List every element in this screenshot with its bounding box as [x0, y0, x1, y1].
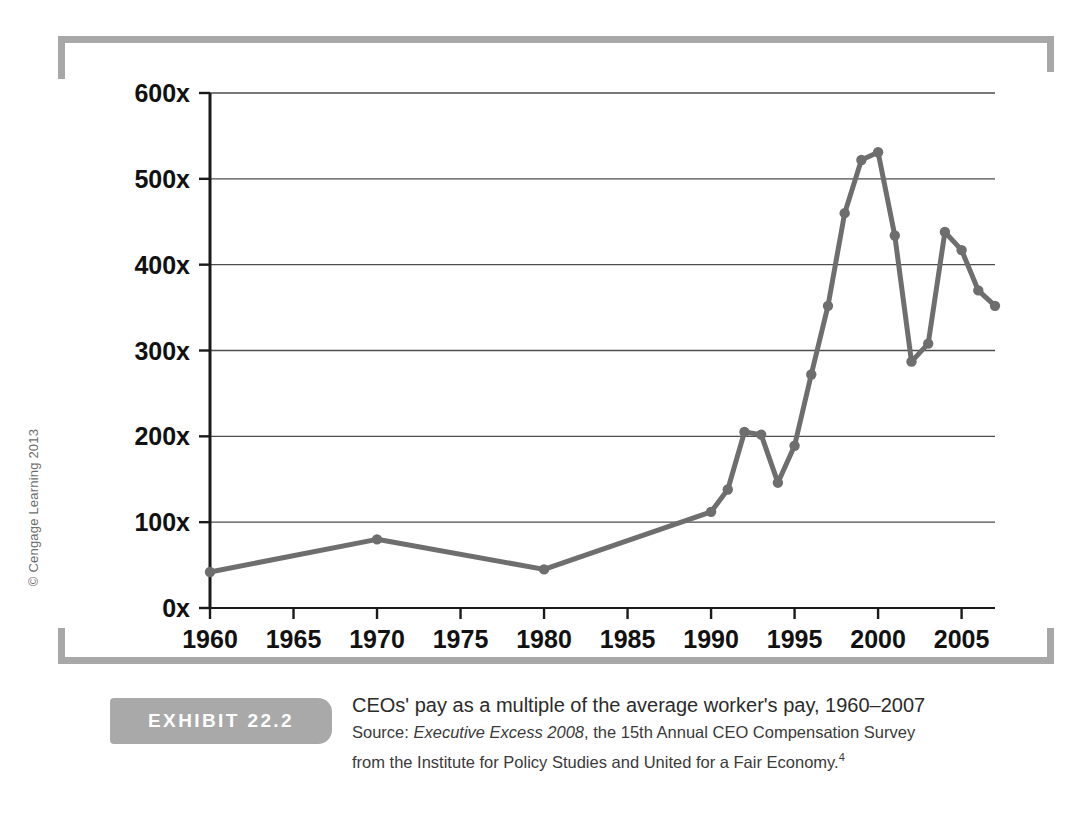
- x-axis-tick-labels: 1960196519701975198019851990199520002005: [182, 625, 989, 653]
- y-tick-label: 200x: [134, 422, 190, 450]
- x-tick-label: 1970: [349, 625, 405, 653]
- x-tick-label: 1980: [516, 625, 572, 653]
- y-tick-label: 300x: [134, 337, 190, 365]
- gridlines: [210, 93, 995, 608]
- y-tick-label: 100x: [134, 508, 190, 536]
- data-point: [806, 369, 816, 379]
- x-tick-label: 1965: [266, 625, 322, 653]
- y-tick-label: 500x: [134, 165, 190, 193]
- exhibit-number-tab: EXHIBIT 22.2: [110, 698, 332, 744]
- data-point: [890, 230, 900, 240]
- y-tick-label: 600x: [134, 79, 190, 107]
- x-tick-label: 1990: [683, 625, 739, 653]
- exhibit-figure: © Cengage Learning 2013 0x100x200x300x40…: [0, 0, 1088, 819]
- caption-source-line-1: Source: Executive Excess 2008, the 15th …: [352, 720, 1052, 745]
- data-point: [906, 356, 916, 366]
- data-point: [739, 427, 749, 437]
- data-point: [956, 245, 966, 255]
- y-tick-label: 0x: [162, 594, 190, 622]
- data-series-line: [210, 152, 995, 572]
- data-point: [372, 534, 382, 544]
- x-tick-label: 1960: [182, 625, 238, 653]
- x-tick-label: 2005: [934, 625, 990, 653]
- x-tick-label: 1985: [600, 625, 656, 653]
- data-point: [839, 208, 849, 218]
- data-point: [756, 429, 766, 439]
- source-prefix: Source:: [352, 723, 413, 741]
- x-tick-label: 1975: [433, 625, 489, 653]
- caption-text: CEOs' pay as a multiple of the average w…: [352, 690, 1052, 775]
- data-point: [773, 477, 783, 487]
- footnote-marker: 4: [839, 751, 845, 763]
- data-point: [973, 285, 983, 295]
- source-rest: , the 15th Annual CEO Compensation Surve…: [584, 723, 915, 741]
- line-chart: 0x100x200x300x400x500x600x 1960196519701…: [0, 0, 1088, 680]
- x-tick-label: 2000: [850, 625, 906, 653]
- caption-title: CEOs' pay as a multiple of the average w…: [352, 690, 1052, 720]
- data-point: [205, 567, 215, 577]
- data-point: [706, 507, 716, 517]
- y-tick-label: 400x: [134, 251, 190, 279]
- data-point: [940, 227, 950, 237]
- data-point: [990, 301, 1000, 311]
- data-point-markers: [205, 147, 1000, 577]
- chart-canvas: 0x100x200x300x400x500x600x 1960196519701…: [0, 0, 1088, 680]
- x-axis-ticks: [210, 608, 962, 619]
- data-point: [789, 441, 799, 451]
- data-point: [856, 155, 866, 165]
- data-point: [539, 564, 549, 574]
- y-axis-tick-labels: 0x100x200x300x400x500x600x: [134, 79, 190, 622]
- x-tick-label: 1995: [767, 625, 823, 653]
- data-point: [823, 301, 833, 311]
- caption-source-line-2: from the Institute for Policy Studies an…: [352, 745, 1052, 775]
- data-point: [923, 338, 933, 348]
- source-publication: Executive Excess 2008: [413, 723, 584, 741]
- data-point: [873, 147, 883, 157]
- exhibit-number-label: EXHIBIT 22.2: [148, 710, 294, 732]
- data-point: [723, 484, 733, 494]
- source-institutions: from the Institute for Policy Studies an…: [352, 753, 839, 771]
- y-axis-ticks: [199, 93, 210, 608]
